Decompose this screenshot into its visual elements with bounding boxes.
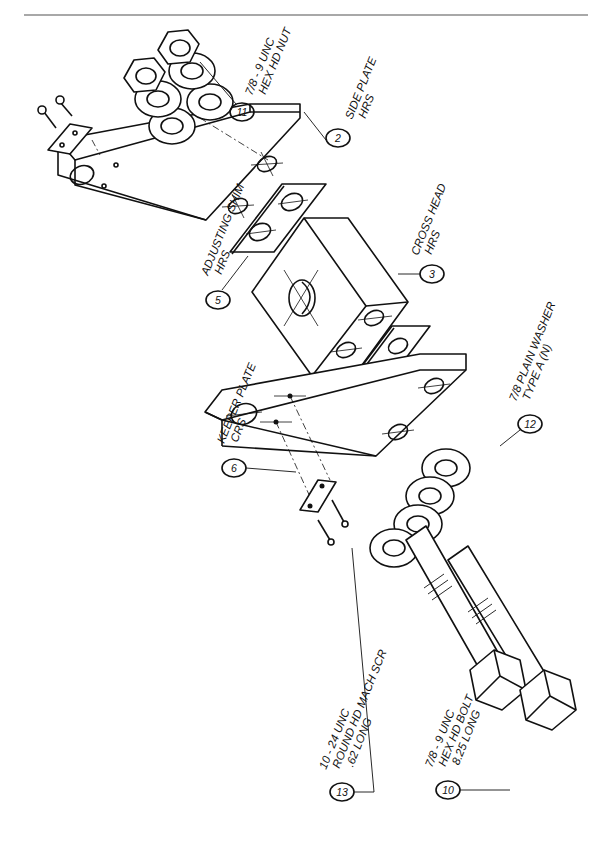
hex-bolts [406, 526, 576, 730]
callout-2: 2 SIDE PLATEHRS [304, 55, 390, 147]
svg-text:2: 2 [334, 132, 341, 144]
svg-text:3: 3 [429, 268, 435, 280]
svg-text:12: 12 [524, 418, 536, 430]
callout-3: 3 CROSS HEADHRS [398, 182, 459, 283]
svg-text:7/8 PLAIN WASHERTYPE A (N): 7/8 PLAIN WASHERTYPE A (N) [507, 300, 569, 407]
svg-text:5: 5 [215, 294, 221, 306]
svg-text:13: 13 [336, 786, 348, 798]
callout-12: 12 7/8 PLAIN WASHERTYPE A (N) [500, 300, 569, 446]
callout-13: 13 10 - 24 UNCROUND HD MACH SCR.62 LONG [317, 548, 400, 801]
svg-text:10: 10 [442, 784, 454, 796]
assembly-drawing: 2 SIDE PLATEHRS 3 CROSS HEADHRS 5 ADJUST… [0, 0, 616, 856]
svg-text:SIDE PLATEHRS: SIDE PLATEHRS [343, 55, 390, 125]
svg-text:6: 6 [231, 462, 237, 474]
svg-text:7/8 - 9 UNCHEX HD NUT: 7/8 - 9 UNCHEX HD NUT [243, 21, 294, 102]
svg-text:10 - 24 UNCROUND HD MACH SCR.6: 10 - 24 UNCROUND HD MACH SCR.62 LONG [317, 643, 400, 779]
svg-text:11: 11 [237, 106, 248, 118]
svg-text:CROSS HEADHRS: CROSS HEADHRS [409, 182, 460, 262]
